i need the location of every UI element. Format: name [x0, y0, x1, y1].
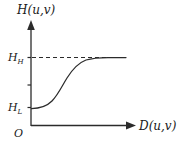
h-low-subscript: L: [17, 108, 23, 116]
transfer-function-chart: H(u,v) D(u,v) HH HL O: [0, 0, 177, 151]
y-axis-label-base: H: [16, 3, 28, 17]
x-axis-label-args: (u,v): [149, 119, 177, 133]
x-axis-label-base: D: [138, 119, 149, 133]
origin-label: O: [14, 127, 23, 140]
figure-container: H(u,v) D(u,v) HH HL O: [0, 0, 177, 151]
x-axis-arrow-icon: [126, 122, 136, 130]
x-axis-label: D(u,v): [138, 119, 177, 133]
h-low-tick-label: HL: [7, 101, 23, 116]
y-axis-label-args: (u,v): [27, 3, 55, 17]
h-high-tick-label: HH: [7, 51, 25, 66]
y-axis-label: H(u,v): [16, 3, 55, 17]
h-low-base: H: [7, 101, 18, 114]
transfer-function-curve: [32, 58, 127, 109]
h-high-base: H: [7, 51, 18, 64]
y-axis-arrow-icon: [27, 20, 35, 30]
h-high-subscript: H: [17, 58, 25, 66]
